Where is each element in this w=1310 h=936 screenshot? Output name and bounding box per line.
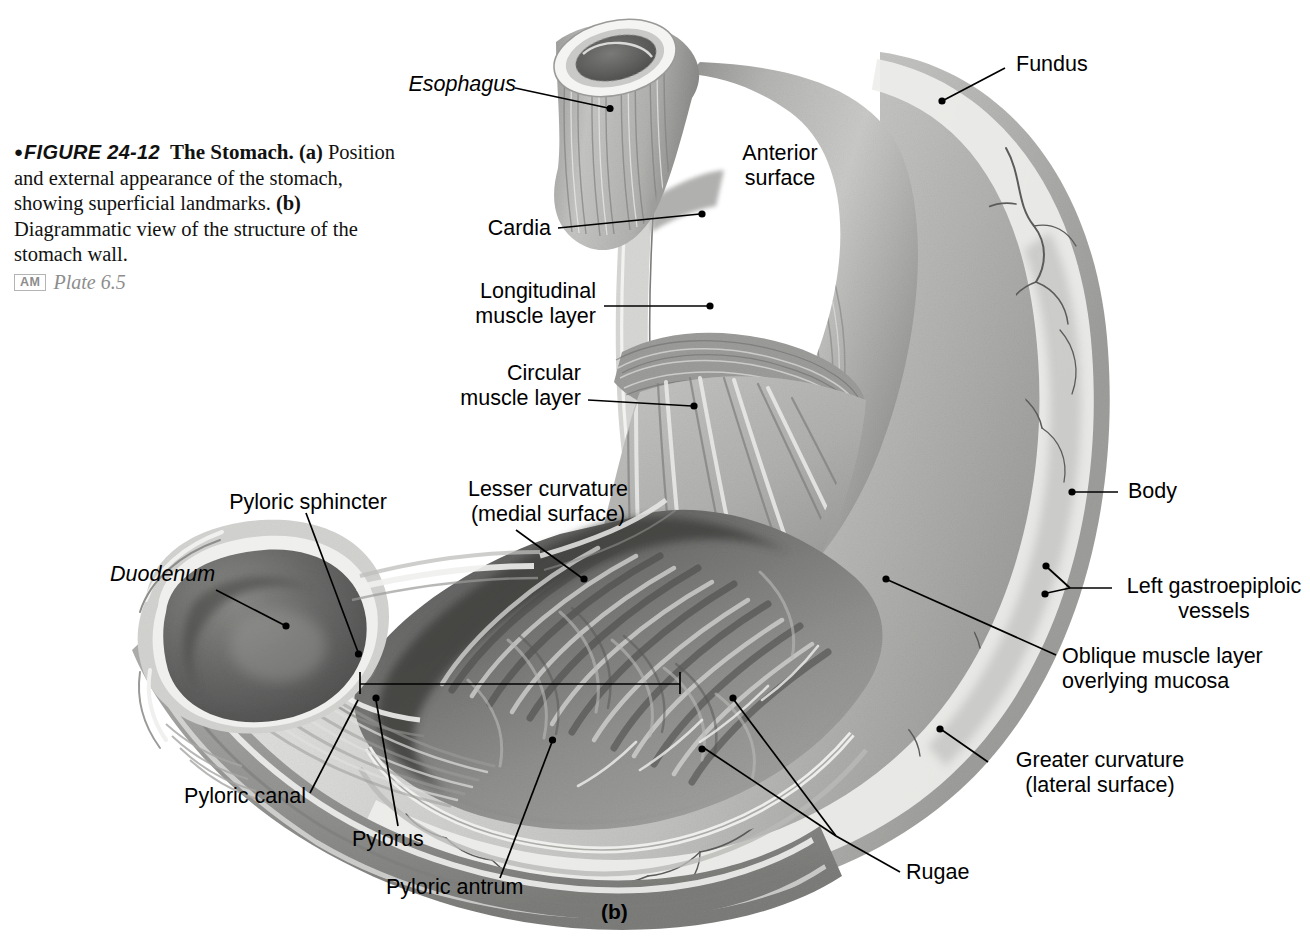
label-greater-curvature: Greater curvature (lateral surface) — [988, 748, 1212, 798]
label-pyloric-sphincter: Pyloric sphincter — [208, 490, 408, 515]
label-fundus: Fundus — [1016, 52, 1088, 77]
label-left-gastroepiploic-vessels: Left gastroepiploic vessels — [1116, 574, 1310, 624]
label-longitudinal-muscle-layer: Longitudinal muscle layer — [316, 279, 596, 329]
label-rugae: Rugae — [906, 860, 969, 885]
figure-number: FIGURE 24-12 — [24, 141, 160, 163]
label-oblique-muscle-layer: Oblique muscle layer overlying mucosa — [1062, 644, 1263, 694]
caption-part-a-tag: (a) — [294, 141, 323, 163]
label-pyloric-canal: Pyloric canal — [110, 784, 306, 809]
label-body: Body — [1128, 479, 1177, 504]
plate-label: Plate 6.5 — [53, 270, 125, 296]
label-lesser-curvature: Lesser curvature (medial surface) — [416, 477, 680, 527]
figure-title: The Stomach. — [160, 140, 294, 164]
label-pyloric-antrum: Pyloric antrum — [386, 875, 523, 900]
figure-stage: ●FIGURE 24-12 The Stomach. (a) Position … — [0, 0, 1310, 936]
caption-paragraph: ●FIGURE 24-12 The Stomach. (a) Position … — [14, 140, 404, 268]
label-cardia: Cardia — [336, 216, 551, 241]
label-anterior-surface: Anterior surface — [700, 141, 860, 191]
label-esophagus: Esophagus — [286, 72, 516, 97]
label-pylorus: Pylorus — [352, 827, 424, 852]
label-duodenum: Duodenum — [110, 562, 215, 587]
caption-part-b-tag: (b) — [276, 192, 301, 214]
panel-identifier: (b) — [601, 900, 628, 924]
am-badge: AM — [14, 274, 46, 291]
caption-bullet: ● — [14, 144, 23, 160]
label-circular-muscle-layer: Circular muscle layer — [316, 361, 581, 411]
caption-part-b-text: Diagrammatic view of the structure of th… — [14, 218, 358, 266]
